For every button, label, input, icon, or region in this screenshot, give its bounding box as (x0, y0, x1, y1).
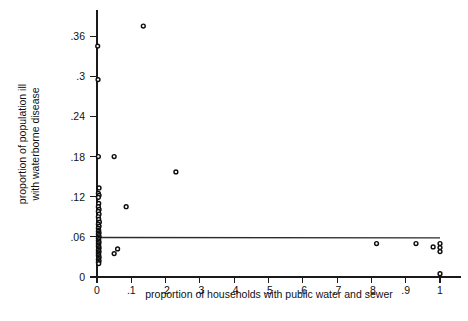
y-axis-title-line1: proportion of population ill (16, 84, 28, 204)
data-point (112, 155, 116, 159)
data-point (438, 246, 442, 250)
x-tick-label-1: .1 (127, 284, 136, 296)
data-point (96, 195, 100, 199)
y-tick-label-3: .18 (70, 151, 85, 163)
data-point (141, 24, 145, 28)
data-point (97, 186, 101, 190)
x-axis-title: proportion of households with public wat… (145, 288, 393, 300)
y-tick-label-6: .36 (70, 30, 85, 42)
data-point (375, 242, 379, 246)
data-point (438, 272, 442, 276)
data-point (438, 242, 442, 246)
x-tick-label-10: 1 (437, 284, 443, 296)
data-point (414, 242, 418, 246)
scatter-plot-figure: 0.06.12.18.24.3.36 0.1.2.3.4.5.6.7.8.91 … (0, 0, 468, 321)
data-point (96, 78, 100, 82)
y-tick-label-5: .3 (76, 70, 85, 82)
data-point (97, 262, 101, 266)
data-point (116, 247, 120, 251)
data-point (112, 252, 116, 256)
plot-canvas: 0.06.12.18.24.3.36 0.1.2.3.4.5.6.7.8.91 … (0, 0, 468, 321)
data-point (124, 205, 128, 209)
x-tick-label-0: 0 (94, 284, 100, 296)
y-tick-label-4: .24 (70, 110, 85, 122)
y-tick-label-2: .12 (70, 191, 85, 203)
x-tick-label-9: .9 (401, 284, 410, 296)
data-point (431, 245, 435, 249)
y-tick-label-0: 0 (79, 271, 85, 283)
data-point (96, 155, 100, 159)
data-point (174, 170, 178, 174)
data-point (96, 44, 100, 48)
y-axis-title: proportion of population ill with waterb… (16, 84, 41, 204)
y-tick-label-1: .06 (70, 231, 85, 243)
data-point (438, 250, 442, 254)
y-axis-title-line2: with waterborne disease (29, 87, 41, 201)
